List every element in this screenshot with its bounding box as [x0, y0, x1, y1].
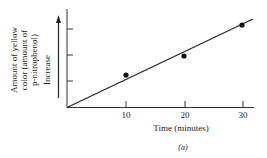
x-tick-label: 30: [239, 110, 248, 120]
figure-caption: (a): [178, 143, 187, 152]
y-axis-label: Amount of yellow color (amount of p-nitr…: [4, 0, 44, 120]
x-tick-label: 20: [181, 110, 190, 120]
data-point: [181, 53, 186, 58]
increase-label: Increase: [42, 55, 52, 85]
x-tick-label: 10: [122, 110, 131, 120]
arrow-head-icon: [56, 15, 61, 23]
x-axis-label: Time (minutes): [153, 123, 208, 133]
y-label-line: Amount of yellow: [9, 27, 19, 93]
data-point: [239, 22, 244, 27]
y-label-line: color (amount of: [19, 27, 29, 93]
y-label-line: p-nitrophenol): [29, 27, 39, 93]
increase-label-box: Increase: [41, 0, 53, 120]
fit-line: [67, 19, 253, 108]
data-point: [123, 72, 128, 77]
